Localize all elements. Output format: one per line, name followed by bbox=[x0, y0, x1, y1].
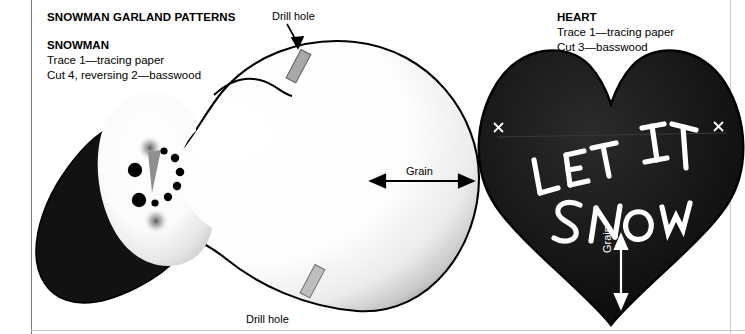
drill-hole-top-label: Drill hole bbox=[272, 10, 315, 22]
snowman-heading: SNOWMAN bbox=[47, 39, 109, 51]
heart-cut-instruction: Cut 3—basswood bbox=[557, 41, 648, 53]
snowman-trace-instruction: Trace 1—tracing paper bbox=[47, 54, 164, 66]
drill-hole-bottom-label: Drill hole bbox=[246, 313, 289, 325]
pattern-sheet: SNOWMAN GARLAND PATTERNS SNOWMAN Trace 1… bbox=[0, 0, 745, 334]
heart-trace-instruction: Trace 1—tracing paper bbox=[557, 26, 674, 38]
grain-label-heart: Grain bbox=[601, 226, 613, 253]
grain-label-snowman: Grain bbox=[406, 165, 433, 177]
page-title: SNOWMAN GARLAND PATTERNS bbox=[47, 11, 236, 23]
heart-heading: HEART bbox=[557, 11, 597, 23]
snowman-cut-instruction: Cut 4, reversing 2—basswood bbox=[47, 69, 201, 81]
heart-shape bbox=[479, 50, 744, 325]
